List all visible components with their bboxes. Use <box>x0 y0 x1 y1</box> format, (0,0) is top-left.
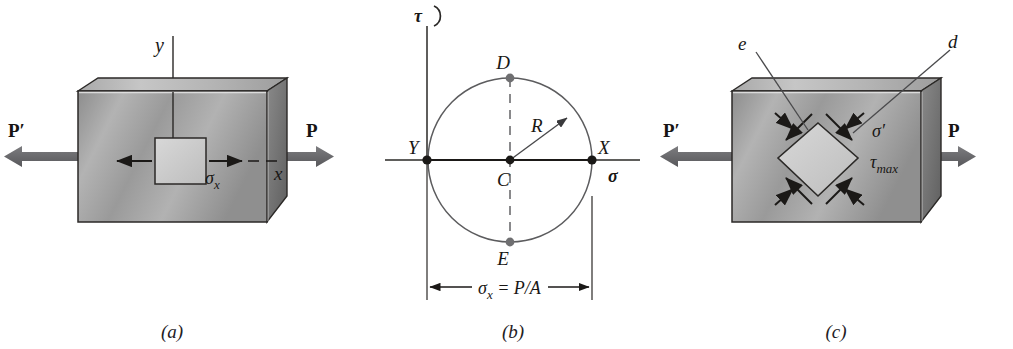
label-p-a: P <box>306 120 318 141</box>
panel-b: τ σ R Y X C D E σx = P/A <box>385 6 640 343</box>
point-d-marker <box>506 74 515 83</box>
figure-root: P′ P y σx x (a) <box>0 0 1013 349</box>
stress-element-a <box>155 138 206 184</box>
label-leader-d: d <box>948 31 958 52</box>
caption-b: (b) <box>502 321 524 343</box>
label-point-y: Y <box>408 137 421 158</box>
label-p-prime-c: P′ <box>663 120 680 141</box>
caption-a: (a) <box>161 321 183 343</box>
label-radius-r: R <box>530 115 543 136</box>
tau-rotation-arc-icon <box>434 6 440 26</box>
label-axis-y: y <box>153 34 164 57</box>
label-leader-e: e <box>738 33 746 54</box>
block-side-face-c <box>921 78 941 222</box>
label-axis-sigma: σ <box>608 166 619 186</box>
point-c-marker <box>506 156 515 165</box>
label-dimension-sigma-x: σx = P/A <box>478 278 542 302</box>
label-point-x: X <box>597 137 611 158</box>
arrow-shape <box>4 146 78 167</box>
label-p-prime-a: P′ <box>8 120 25 141</box>
point-x-marker <box>587 155 596 164</box>
caption-c: (c) <box>825 321 846 343</box>
block-top-face-a <box>78 78 287 91</box>
panel-c: P′ P e d σ′ τmax <box>660 31 976 343</box>
label-p-c: P <box>948 120 960 141</box>
label-sigma-prime: σ′ <box>872 121 886 141</box>
label-axis-tau: τ <box>414 6 423 26</box>
point-e-marker <box>506 238 515 247</box>
panel-a: P′ P y σx x (a) <box>4 34 334 343</box>
block-side-face-a <box>267 78 287 222</box>
load-arrow-left-a <box>4 146 78 167</box>
point-y-marker <box>422 155 431 164</box>
load-arrow-left-c <box>660 146 732 167</box>
arrow-shape <box>660 146 732 167</box>
label-point-c: C <box>497 169 510 190</box>
label-point-d: D <box>495 52 510 73</box>
label-axis-x: x <box>273 163 283 184</box>
label-point-e: E <box>496 248 509 269</box>
figure-canvas: P′ P y σx x (a) <box>0 0 1013 349</box>
